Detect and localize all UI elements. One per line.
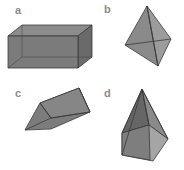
rectangular-prism-shape — [8, 25, 92, 68]
triangular-prism-shape — [25, 88, 90, 130]
shapes-canvas — [0, 0, 184, 170]
pentagonal-pyramid-shape — [122, 89, 168, 161]
tetrahedron-shape — [125, 6, 171, 66]
